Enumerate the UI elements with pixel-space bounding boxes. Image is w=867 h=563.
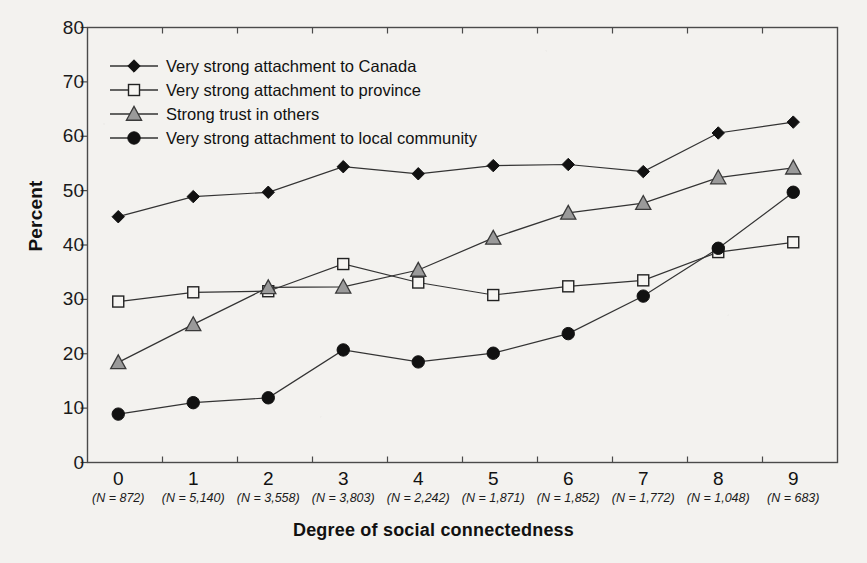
legend-label: Strong trust in others [160, 105, 319, 124]
data-point-filled-circle [128, 132, 140, 144]
legend-item-2[interactable]: Strong trust in others [108, 102, 508, 126]
data-point-filled-diamond [128, 60, 140, 72]
chart-legend: Very strong attachment to CanadaVery str… [108, 54, 508, 150]
data-point-filled-triangle [126, 106, 141, 120]
legend-marker-filled-diamond-icon [108, 56, 160, 76]
legend-label: Very strong attachment to province [160, 81, 421, 100]
legend-label: Very strong attachment to Canada [160, 57, 416, 76]
x-tick-sample-size: (N = 683) [738, 490, 848, 506]
legend-item-0[interactable]: Very strong attachment to Canada [108, 54, 508, 78]
legend-marker-filled-circle-icon [108, 128, 160, 148]
legend-item-3[interactable]: Very strong attachment to local communit… [108, 126, 508, 150]
data-point-open-square [129, 85, 140, 96]
legend-label: Very strong attachment to local communit… [160, 129, 477, 148]
legend-item-1[interactable]: Very strong attachment to province [108, 78, 508, 102]
x-tick-label: 9 [738, 468, 848, 490]
chart-figure: Percent Degree of social connectedness 0… [0, 0, 867, 563]
legend-marker-open-square-icon [108, 80, 160, 100]
legend-marker-filled-triangle-icon [108, 104, 160, 124]
x-tick-group: 9(N = 683) [738, 468, 848, 506]
